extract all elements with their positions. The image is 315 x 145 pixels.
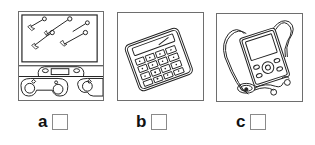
- option-a-label: a: [38, 113, 47, 130]
- picture-frame-a: [18, 11, 104, 101]
- option-a-checkbox[interactable]: [52, 114, 68, 130]
- option-b: b: [136, 112, 167, 131]
- option-b-label: b: [136, 113, 146, 130]
- option-b-checkbox[interactable]: [151, 114, 167, 130]
- option-a: a: [38, 112, 68, 131]
- picture-frame-b: [117, 12, 204, 101]
- video-game-console-icon: [19, 12, 103, 100]
- calculator-icon: [118, 13, 203, 100]
- picture-frame-c: [216, 13, 303, 102]
- option-c-label: c: [236, 113, 245, 130]
- option-c-checkbox[interactable]: [250, 114, 266, 130]
- option-c: c: [236, 112, 266, 131]
- mp3-player-icon: [217, 14, 302, 101]
